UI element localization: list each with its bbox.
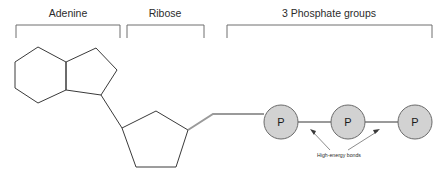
high-energy-bonds-caption: High-energy bonds — [317, 152, 361, 158]
phosphate-label-3: P — [411, 116, 418, 128]
bracket-adenine — [16, 25, 120, 38]
phosphate-group-1: P — [264, 105, 298, 139]
section-label-adenine: Adenine — [49, 7, 88, 19]
adenine-pentagon-ring — [66, 48, 117, 95]
ribose-phosphate-chain — [188, 114, 264, 130]
atp-structure-svg: Adenine Ribose 3 Phosphate groups P P P — [0, 0, 445, 176]
adenine-ribose-bond — [101, 95, 122, 128]
bracket-ribose — [127, 25, 204, 38]
ribose-pentagon-ring — [122, 111, 188, 167]
phosphate-group-3: P — [398, 105, 432, 139]
high-energy-bond-pointer-left — [310, 129, 330, 150]
pointer-line-left — [312, 131, 330, 150]
phosphate-label-1: P — [277, 116, 284, 128]
phosphate-group-2: P — [331, 105, 365, 139]
adenine-hexagon-ring — [15, 47, 66, 103]
phosphate-label-2: P — [344, 116, 351, 128]
atp-diagram: Adenine Ribose 3 Phosphate groups P P P — [0, 0, 445, 176]
section-label-phosphates: 3 Phosphate groups — [282, 7, 376, 19]
bracket-phosphates — [227, 25, 432, 38]
section-label-ribose: Ribose — [149, 7, 182, 19]
